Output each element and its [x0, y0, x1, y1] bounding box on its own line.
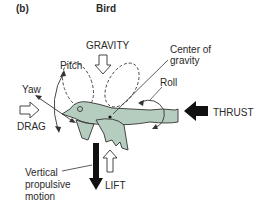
vertical-motion-arrow-icon [89, 143, 103, 190]
center-of-gravity-dot [108, 115, 111, 118]
bird-body [62, 102, 178, 150]
pitch-arrow-icon [54, 72, 64, 130]
drag-arrow-icon [20, 102, 39, 118]
bird-diagram [0, 0, 261, 220]
center-of-gravity-pointer [113, 60, 168, 114]
gravity-arrow-icon [95, 55, 111, 74]
lift-arrow-icon [103, 150, 117, 172]
thrust-arrow-icon [184, 101, 208, 121]
